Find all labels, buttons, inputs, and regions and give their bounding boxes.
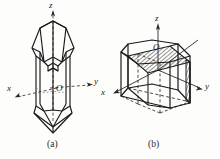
panel-a-crystal-upper-pyramid [32, 21, 74, 62]
panel-b-y-axis-label: y [205, 82, 209, 91]
panel-a-x-axis-label: x [7, 84, 11, 93]
panel-b-group [113, 23, 203, 113]
panel-b-caption: (b) [148, 140, 159, 150]
crystal-figure: z x y O (a) z x y O (b) [0, 0, 220, 159]
panel-a-z-axis-label: z [49, 1, 53, 10]
panel-a-y-axis-label: y [94, 77, 98, 86]
panel-a-group [15, 10, 93, 133]
figure-drawing [0, 0, 220, 159]
panel-b-origin-label: O [153, 43, 160, 52]
panel-b-bottom-face [121, 84, 190, 108]
panel-b-z-axis-label: z [155, 14, 159, 23]
panel-a-caption: (a) [47, 140, 58, 150]
panel-b-x-axis-label: x [101, 88, 105, 97]
panel-a-crystal-prism [36, 52, 70, 111]
panel-a-origin-label: O [56, 84, 63, 93]
